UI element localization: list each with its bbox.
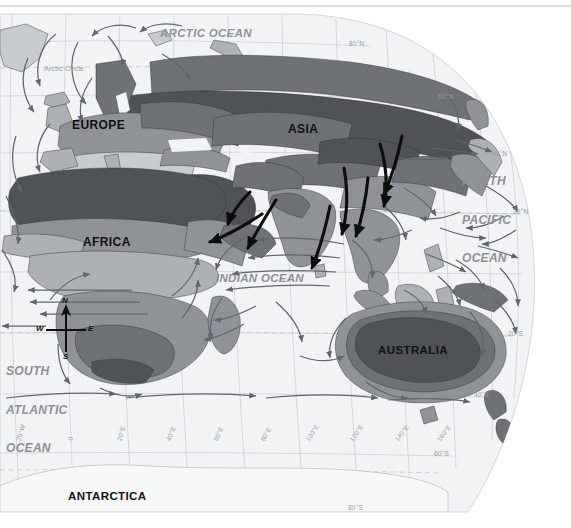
compass-east-label: E — [88, 324, 93, 333]
world-map-graphic — [0, 0, 571, 528]
black-sea — [168, 138, 212, 152]
map-screenshot: EUROPE ASIA AFRICA AUSTRALIA ANTARCTICA … — [0, 0, 571, 528]
compass-west-label: W — [36, 324, 44, 333]
compass-north-label: N — [62, 296, 68, 305]
compass-south-label: S — [63, 352, 68, 361]
